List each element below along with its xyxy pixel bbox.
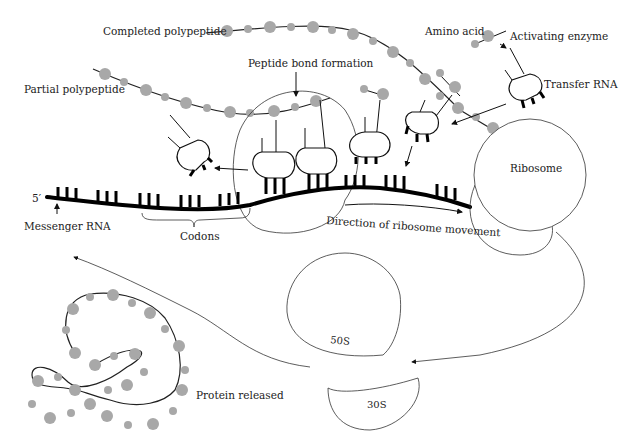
completed-polypeptide-chain [206, 21, 499, 134]
diagram-canvas: Completed polypeptide Partial polypeptid… [0, 0, 619, 448]
trna-incoming-1 [350, 85, 390, 164]
return-arrow [74, 257, 310, 367]
label-messenger-rna: Messenger RNA [24, 220, 111, 232]
partial-polypeptide-chain [93, 68, 330, 118]
label-direction: Direction of ribosome movement [326, 214, 502, 238]
messenger-rna-strand [47, 175, 470, 209]
label-50s: 50S [330, 334, 351, 347]
trna-in-ribosome-1 [253, 120, 295, 194]
ribosome-recycle-arrow [412, 232, 584, 362]
label-codons: Codons [180, 230, 220, 242]
label-completed-polypeptide: Completed polypeptide [103, 25, 227, 37]
label-protein-released: Protein released [196, 389, 284, 401]
label-partial-polypeptide: Partial polypeptide [24, 83, 125, 95]
direction-arrow [345, 204, 462, 212]
released-trna [168, 115, 248, 176]
released-protein [28, 289, 189, 430]
label-five-prime: 5′ [32, 192, 42, 204]
trna-in-ribosome-2 [296, 100, 337, 190]
label-transfer-rna: Transfer RNA [544, 78, 618, 90]
translation-diagram: Completed polypeptide Partial polypeptid… [0, 0, 619, 448]
label-peptide-bond-formation: Peptide bond formation [248, 57, 374, 69]
label-amino-acid: Amino acid [424, 25, 485, 37]
label-ribosome: Ribosome [510, 162, 562, 174]
label-activating-enzyme: Activating enzyme [509, 30, 608, 42]
amino-acid-activation [452, 30, 544, 124]
label-30s: 30S [367, 399, 387, 410]
